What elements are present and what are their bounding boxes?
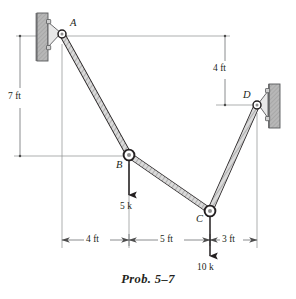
member-bc bbox=[129, 155, 210, 211]
wall-right bbox=[269, 84, 280, 128]
joint-a-pin bbox=[61, 33, 64, 36]
joint-label-d: D bbox=[243, 90, 251, 101]
members bbox=[62, 34, 257, 211]
dim-label-3ft: 3 ft bbox=[222, 235, 235, 245]
truss-diagram-canvas bbox=[0, 0, 296, 299]
problem-figure: A B C D 7 ft 4 ft 4 ft 5 ft 3 ft 5 k 10 … bbox=[0, 0, 296, 299]
dim-label-4ft-vertical: 4 ft bbox=[213, 64, 226, 74]
pin-bolt-d-top bbox=[266, 89, 270, 93]
figure-caption: Prob. 5–7 bbox=[0, 272, 296, 287]
pin-bolt-a-top bbox=[47, 20, 51, 24]
wall-plate-right bbox=[269, 84, 280, 128]
load-label-b: 5 k bbox=[120, 202, 132, 212]
joint-label-b: B bbox=[116, 160, 122, 171]
joint-b-pin bbox=[127, 153, 131, 157]
dim-label-4ft-horizontal: 4 ft bbox=[86, 235, 99, 245]
member-cd bbox=[210, 105, 257, 211]
member-ab bbox=[62, 34, 129, 155]
joint-d-pin bbox=[256, 104, 259, 107]
joints bbox=[58, 30, 261, 216]
pin-bolt-d-bottom bbox=[266, 117, 270, 121]
pin-bolt-a-bottom bbox=[47, 46, 51, 50]
joint-c-pin bbox=[208, 209, 212, 213]
joint-label-c: C bbox=[196, 214, 203, 225]
dim-label-7ft: 7 ft bbox=[8, 92, 21, 102]
dim-label-5ft: 5 ft bbox=[160, 235, 173, 245]
joint-label-a: A bbox=[70, 18, 76, 29]
